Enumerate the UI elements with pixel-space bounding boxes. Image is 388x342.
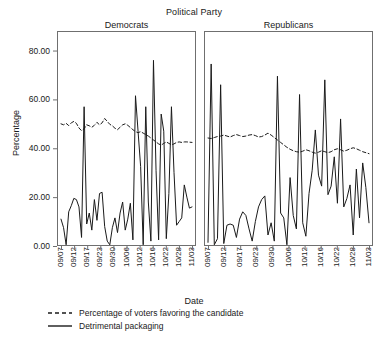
chart-figure: Political Party Democrats Republicans Pe… — [0, 0, 388, 342]
legend-item-packaging: Detrimental packaging — [47, 319, 243, 332]
legend-label-poll: Percentage of voters favoring the candid… — [79, 308, 243, 318]
dashed-line-icon — [47, 308, 73, 318]
solid-line-icon — [47, 321, 73, 331]
series-packaging-republicans — [208, 64, 369, 245]
legend-item-poll: Percentage of voters favoring the candid… — [47, 306, 243, 319]
panel-frame-democrats — [58, 32, 196, 246]
series-poll-republicans — [208, 133, 369, 154]
series-packaging-democrats — [61, 60, 192, 244]
chart-legend: Percentage of voters favoring the candid… — [47, 306, 243, 332]
plot-area — [0, 0, 388, 342]
legend-label-packaging: Detrimental packaging — [79, 321, 164, 331]
